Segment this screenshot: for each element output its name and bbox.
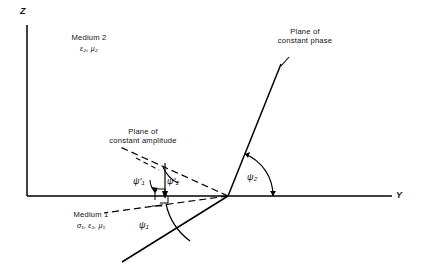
angle-arc-psi1-prime: [150, 180, 158, 194]
plane-of-constant-amplitude-label: Plane of constant amplitude: [82, 128, 204, 146]
constant-amplitude-dash-upper: [118, 146, 228, 196]
angle-label-psi1: ψ₁: [139, 220, 149, 231]
angle-arc-psi1-prime-arrow: [152, 187, 158, 194]
medium-1-name: Medium 1: [74, 210, 109, 219]
normal-marker-group: [152, 163, 168, 206]
z-axis-label: Z: [20, 6, 26, 17]
phase-label-line-2: constant phase: [258, 37, 352, 46]
angle-label-psi2-prime: ψ'₂: [167, 176, 179, 187]
amplitude-label-line-2: constant amplitude: [82, 137, 204, 146]
right-angle-tick-lower: [160, 197, 168, 203]
angle-label-psi2: ψ₂: [247, 172, 257, 183]
medium-2-params: ε₂, μ₂: [52, 45, 126, 53]
medium-1-label: Medium 1 σ₁, ε₁, μ₁: [48, 211, 134, 230]
medium-2-label: Medium 2 ε₂, μ₂: [52, 34, 126, 53]
angle-label-psi1-prime: ψ'₁: [133, 176, 145, 187]
medium-2-name: Medium 2: [72, 33, 107, 42]
figure-canvas: Z Y Medium 2 ε₂, μ₂ Medium 1 σ₁, ε₁, μ₁ …: [0, 0, 423, 277]
y-axis-label: Y: [396, 190, 402, 201]
plane-of-constant-phase-label: Plane of constant phase: [258, 28, 352, 46]
phase-caption-leader: [281, 57, 289, 66]
medium-1-params: σ₁, ε₁, μ₁: [48, 222, 134, 230]
constant-phase-line-lower: [122, 196, 228, 262]
